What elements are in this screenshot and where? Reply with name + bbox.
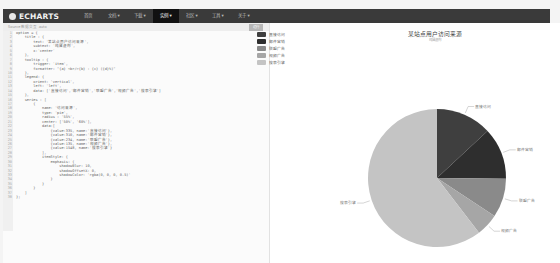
legend-swatch-icon	[257, 32, 266, 37]
code-text: }	[16, 186, 35, 190]
code-text: left: 'left',	[16, 84, 61, 88]
code-editor-panel[interactable]: Source 数据交互 auto 运行 1option = {2 title :…	[3, 23, 270, 263]
code-text: shadowBlur: 10,	[16, 164, 92, 168]
code-text: subtext: '纯属虚构',	[16, 44, 75, 48]
pie-chart[interactable]: 直接访问邮件营销联盟广告视频广告搜索引擎	[270, 23, 560, 263]
legend-swatch-icon	[257, 53, 266, 58]
code-text: title : {	[16, 35, 44, 39]
code-text: ]	[16, 191, 27, 195]
pie-label: 直接访问	[475, 104, 491, 109]
top-navbar: ECHARTS 首页 文档 ▾ 下载 ▾ 实例 ▾ 社区 ▾ 工具 ▾ 关于 ▾	[3, 9, 550, 23]
code-text: }	[16, 182, 44, 186]
legend-swatch-icon	[257, 60, 266, 65]
code-text: center: ['50%', '60%'],	[16, 120, 92, 124]
code-text: },	[16, 53, 29, 57]
label-line	[357, 201, 370, 203]
code-text: },	[16, 93, 29, 97]
code-text: orient: 'vertical',	[16, 80, 74, 84]
code-text: name: '访问来源',	[16, 106, 77, 110]
chart-panel: 直接访问邮件营销联盟广告视频广告搜索引擎 某站点用户访问来源 纯属虚构 直接访问…	[270, 23, 560, 263]
logo-text: ECHARTS	[19, 12, 59, 21]
code-text: }	[16, 177, 53, 181]
nav-item-home[interactable]: 首页	[75, 9, 101, 23]
code-area[interactable]: 1option = {2 title : {3 text: '某站点用户访问来源…	[3, 31, 269, 200]
code-text: };	[16, 195, 20, 199]
label-line	[465, 106, 474, 112]
code-text: shadowColor: 'rgba(0, 0, 0, 0.5)'	[16, 173, 131, 177]
pie-label: 搜索引擎	[340, 200, 356, 205]
label-line	[505, 199, 518, 201]
line-number: 38	[3, 195, 12, 199]
label-line	[489, 226, 500, 231]
run-button[interactable]: 运行	[249, 24, 263, 31]
code-line: 38};	[3, 195, 269, 199]
editor-header-text: Source 数据交互 auto	[8, 25, 47, 29]
pie-label: 邮件营销	[517, 147, 533, 152]
nav-item-download[interactable]: 下载 ▾	[127, 9, 153, 23]
code-text: tooltip : {	[16, 58, 48, 62]
nav-item-community[interactable]: 社区 ▾	[179, 9, 205, 23]
pie-label: 视频广告	[501, 228, 517, 233]
code-text: radius : '55%',	[16, 115, 74, 119]
nav-item-tools[interactable]: 工具 ▾	[205, 9, 231, 23]
code-text: data:[	[16, 124, 55, 128]
code-text: type: 'pie',	[16, 111, 68, 115]
code-text: formatter: "{a} <br/>{b} : {c} ({d}%)"	[16, 67, 116, 71]
nav-item-examples[interactable]: 实例 ▾	[153, 9, 179, 23]
echarts-logo[interactable]: ECHARTS	[3, 12, 75, 21]
nav-item-docs[interactable]: 文档 ▾	[101, 9, 127, 23]
code-text: {value:1548, name:'搜索引擎'}	[16, 146, 112, 150]
code-text: series : [	[16, 98, 46, 102]
code-text: ],	[16, 151, 46, 155]
echarts-logo-icon	[9, 13, 16, 20]
nav-item-about[interactable]: 关于 ▾	[231, 9, 257, 23]
code-text: shadowOffsetX: 0,	[16, 169, 96, 173]
code-text: option = {	[16, 31, 38, 35]
code-text: legend: {	[16, 75, 44, 79]
pie-label: 联盟广告	[519, 198, 535, 203]
legend-swatch-icon	[257, 39, 266, 44]
code-text: {value:234, name:'联盟广告'},	[16, 138, 112, 142]
code-text: x:'center'	[16, 49, 55, 53]
code-text: emphasis: {	[16, 160, 74, 164]
editor-header: Source 数据交互 auto 运行	[3, 23, 269, 31]
label-line	[503, 150, 516, 153]
code-text: },	[16, 71, 29, 75]
code-text: {value:310, name:'邮件营销'},	[16, 133, 112, 137]
code-text: data: ['直接访问','邮件营销','联盟广告','视频广告','搜索引擎…	[16, 89, 161, 93]
legend-swatch-icon	[257, 46, 266, 51]
code-text: trigger: 'item',	[16, 62, 68, 66]
code-text: itemStyle: {	[16, 155, 68, 159]
